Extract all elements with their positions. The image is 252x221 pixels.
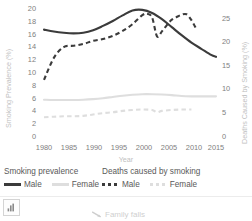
svg-text:6: 6: [32, 94, 36, 103]
y-axis-ticks: 20 18 16 14 12 10 8 6 4 2 0: [28, 4, 36, 141]
svg-text:18: 18: [28, 17, 36, 26]
smoking-chart: Smoking Prevalence (%) Deaths Caused by …: [0, 0, 252, 166]
legend-row: Male Female: [102, 178, 200, 190]
svg-text:10: 10: [222, 84, 230, 93]
svg-text:12: 12: [28, 55, 36, 64]
svg-text:1995: 1995: [111, 143, 127, 152]
y2-axis-ticks: 25 20 15 10 5 0: [222, 14, 230, 141]
line-swatch-dashed-dark-icon: [102, 183, 119, 186]
legend-row: Male Female: [4, 178, 99, 190]
svg-text:20: 20: [222, 37, 230, 46]
svg-text:20: 20: [28, 4, 36, 13]
svg-text:1980: 1980: [36, 143, 52, 152]
line-swatch-solid-light-icon: [52, 183, 69, 186]
legend-item-deaths-male[interactable]: Male: [102, 180, 140, 189]
svg-text:16: 16: [28, 30, 36, 39]
legend-item-label: Male: [122, 180, 140, 189]
caption-label: Family falls: [105, 210, 145, 219]
screenshot-root: Smoking Prevalence (%) Deaths Caused by …: [0, 0, 252, 221]
series-line-male-deaths: [44, 14, 196, 80]
series-line-female-deaths: [44, 110, 191, 118]
legend-item-label: Female: [170, 180, 197, 189]
legend-group-heading: Deaths caused by smoking: [102, 166, 200, 177]
legend-item-label: Female: [72, 180, 99, 189]
svg-text:25: 25: [222, 14, 230, 23]
svg-text:4: 4: [32, 106, 36, 115]
y-axis-title: Smoking Prevalence (%): [4, 49, 13, 128]
svg-text:2005: 2005: [161, 143, 177, 152]
line-swatch-solid-dark-icon: [4, 183, 21, 186]
series-paths: [44, 10, 216, 118]
legend-item-deaths-female[interactable]: Female: [150, 180, 197, 189]
legend-group-heading: Smoking prevalence: [4, 166, 99, 177]
svg-text:15: 15: [222, 61, 230, 70]
x-axis-ticks: 1980 1985 1990 1995 2000 2005 2010 2015: [36, 143, 224, 152]
svg-text:2: 2: [32, 119, 36, 128]
legend-group-deaths: Deaths caused by smoking Male Female: [102, 166, 200, 190]
svg-text:5: 5: [222, 108, 226, 117]
svg-text:8: 8: [32, 81, 36, 90]
svg-text:2000: 2000: [136, 143, 152, 152]
arrow-pointer-icon: [92, 211, 101, 218]
chart-canvas: Smoking Prevalence (%) Deaths Caused by …: [0, 0, 252, 166]
svg-text:2010: 2010: [186, 143, 202, 152]
svg-text:10: 10: [28, 68, 36, 77]
legend-item-prevalence-male[interactable]: Male: [4, 180, 42, 189]
section-divider: [0, 196, 252, 197]
y2-axis-title: Deaths Caused by Smoking (%): [240, 42, 249, 144]
legend-item-label: Male: [24, 180, 42, 189]
series-line-female-prevalence: [44, 94, 216, 100]
chart-legend: Smoking prevalence Male Female Deaths ca…: [0, 166, 252, 196]
svg-text:2015: 2015: [208, 143, 224, 152]
legend-item-prevalence-female[interactable]: Female: [52, 180, 99, 189]
svg-text:0: 0: [222, 132, 226, 141]
x-axis-title: Year: [119, 155, 134, 164]
svg-text:0: 0: [32, 132, 36, 141]
caption-inner: Family falls: [92, 210, 145, 219]
svg-text:1985: 1985: [61, 143, 77, 152]
legend-group-prevalence: Smoking prevalence Male Female: [4, 166, 99, 190]
cut-off-caption: Family falls: [0, 210, 252, 221]
svg-text:14: 14: [28, 42, 36, 51]
svg-text:1990: 1990: [86, 143, 102, 152]
line-swatch-dashed-light-icon: [150, 183, 167, 186]
